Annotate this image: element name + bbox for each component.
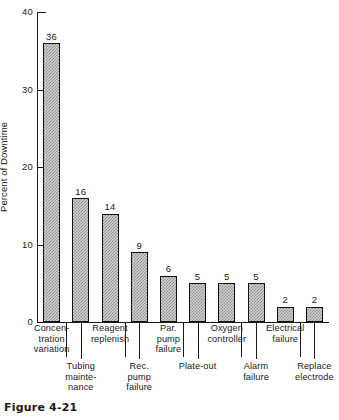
bar-value-label: 2 [282,295,287,305]
category-label: Concen- tration variation [23,323,81,355]
bar[interactable]: 5 [248,283,265,322]
label-separator-line [198,323,199,359]
category-label: Tubing mainte- nance [52,361,110,393]
bar-value-label: 14 [105,202,116,212]
y-tick-label: 40 [22,7,33,17]
bar[interactable]: 6 [160,276,177,323]
category-label: Alarm failure [227,361,285,382]
y-tick-label: 10 [22,240,33,250]
label-separator-line [256,323,257,359]
category-label: Reagent replenish [81,323,139,344]
y-tick-label: 20 [22,162,33,172]
bar[interactable]: 5 [189,283,206,322]
bar-value-label: 2 [312,295,317,305]
category-label: Par. pump failure [139,323,197,355]
bar-value-label: 36 [46,32,57,42]
category-label: Plate-out [169,361,227,372]
bar-value-label: 5 [253,272,258,282]
label-separator-line [241,323,242,357]
category-labels-layer: Concen- tration variationTubing mainte- … [37,323,329,401]
bar[interactable]: 5 [218,283,235,322]
label-separator-line [81,323,82,359]
bars-layer: 3616149655522 [37,12,329,323]
label-separator-line [183,323,184,357]
category-label: Rec. pump failure [110,361,168,393]
label-separator-line [125,323,126,357]
label-separator-line [300,323,301,357]
bar-value-label: 9 [136,241,141,251]
category-label: Electrical failure [256,323,314,344]
label-separator-line [314,323,315,359]
bar[interactable]: 2 [277,307,294,323]
figure-caption: Figure 4-21 [4,401,77,414]
bar-value-label: 5 [195,272,200,282]
pareto-chart-figure: Percent of Downtime 010203040 3616149655… [0,0,339,420]
bar-value-label: 5 [224,272,229,282]
bar[interactable]: 9 [131,252,148,322]
bar[interactable]: 16 [72,198,89,322]
bar-value-label: 6 [166,264,171,274]
bar[interactable]: 2 [306,307,323,323]
bar[interactable]: 36 [43,43,60,322]
plot-area: Percent of Downtime 010203040 3616149655… [37,12,329,322]
label-separator-line [139,323,140,359]
category-label: Replace electrode [285,361,339,382]
y-tick-label: 30 [22,85,33,95]
label-separator-line [66,323,67,357]
category-label: Oxygen controller [198,323,256,344]
y-axis-title: Percent of Downtime [0,122,9,212]
bar-value-label: 16 [75,187,86,197]
bar[interactable]: 14 [102,214,119,323]
